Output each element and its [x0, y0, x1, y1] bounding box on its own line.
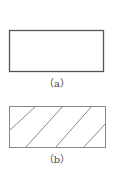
hatch-lines — [9, 106, 106, 148]
hatch-line — [55, 106, 92, 148]
figure-a — [10, 31, 104, 72]
figure-b — [9, 106, 106, 148]
hatch-line — [83, 123, 106, 148]
diagram-canvas — [0, 0, 114, 180]
hatch-line — [9, 106, 36, 131]
hatch-line — [25, 106, 63, 148]
caption-a: （a） — [0, 78, 114, 90]
plain-rectangle — [10, 31, 104, 72]
caption-b: （b） — [0, 154, 114, 166]
